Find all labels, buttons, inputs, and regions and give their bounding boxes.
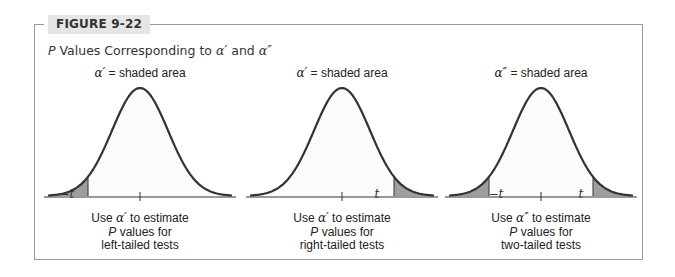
- desc-use: Use: [293, 211, 318, 225]
- desc-values-for: values for: [318, 225, 373, 239]
- tick-label-neg-t: −t: [471, 187, 521, 201]
- subtitle-alpha-double-prime: α″: [259, 43, 272, 58]
- desc-use: Use: [491, 211, 516, 225]
- desc-line-1: Use α″ to estimate: [441, 212, 641, 226]
- curve-fill: [48, 88, 232, 196]
- figure-subtitle: P Values Corresponding to α′ and α″: [48, 43, 272, 58]
- curve-fill: [449, 88, 633, 196]
- desc-symbol: α′: [116, 211, 127, 225]
- desc-line-2: P values for: [242, 226, 442, 240]
- panel-description: Use α′ to estimate P values for right-ta…: [242, 212, 442, 253]
- desc-line-3: left-tailed tests: [40, 239, 240, 253]
- panel-description: Use α′ to estimate P values for left-tai…: [40, 212, 240, 253]
- panel-right-tailed: α′ = shaded area t Use α′ to estimate P …: [242, 66, 442, 256]
- subtitle-and: and: [227, 43, 258, 58]
- desc-estimate: to estimate: [329, 211, 391, 225]
- tick-label-neg-t: −t: [42, 187, 92, 201]
- desc-use: Use: [91, 211, 116, 225]
- desc-line-2: P values for: [40, 226, 240, 240]
- panel-left-tailed: α′ = shaded area −t Use α′ to estimate P…: [40, 66, 240, 256]
- desc-line-3: two-tailed tests: [441, 239, 641, 253]
- subtitle-alpha-prime: α′: [216, 43, 227, 58]
- panel-description: Use α″ to estimate P values for two-tail…: [441, 212, 641, 253]
- figure-label: FIGURE 9-22: [48, 15, 150, 34]
- subtitle-p: P: [48, 43, 56, 58]
- desc-symbol: α′: [318, 211, 329, 225]
- tick-label-t: t: [362, 187, 392, 201]
- desc-estimate: to estimate: [127, 211, 189, 225]
- desc-line-2: P values for: [441, 226, 641, 240]
- desc-estimate: to estimate: [529, 211, 591, 225]
- desc-line-1: Use α′ to estimate: [242, 212, 442, 226]
- tick-label-t: t: [566, 187, 596, 201]
- desc-line-1: Use α′ to estimate: [40, 212, 240, 226]
- panel-two-tailed: α″ = shaded area −t t Use α″ to estimate…: [441, 66, 641, 256]
- subtitle-text: Values Corresponding to: [56, 43, 216, 58]
- curve-fill: [250, 88, 434, 196]
- desc-values-for: values for: [517, 225, 572, 239]
- desc-values-for: values for: [116, 225, 171, 239]
- normal-curve-right-tail: [242, 78, 442, 218]
- desc-symbol: α″: [516, 211, 529, 225]
- desc-line-3: right-tailed tests: [242, 239, 442, 253]
